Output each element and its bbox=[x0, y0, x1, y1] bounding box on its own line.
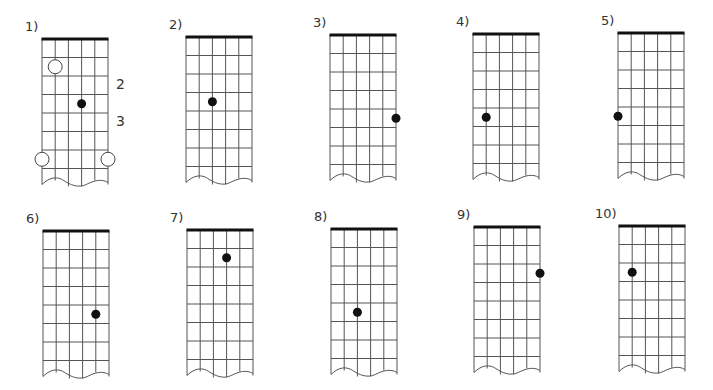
finger-dot bbox=[628, 268, 637, 277]
nut-bar bbox=[619, 225, 686, 228]
fretboard-diagram bbox=[0, 0, 713, 390]
torn-edge bbox=[619, 365, 685, 373]
